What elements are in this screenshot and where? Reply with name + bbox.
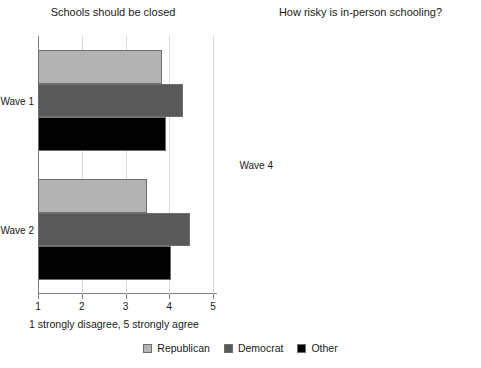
panel-title-left: Schools should be closed <box>8 6 218 18</box>
group-label-wave-4: Wave 4 <box>231 160 273 171</box>
x-axis-tick-label: 5 <box>210 301 216 312</box>
figure: Schools should be closed 12345 1 strongl… <box>0 0 481 368</box>
legend-swatch-other <box>297 344 306 353</box>
panel-how-risky-is-in-person-schooling: How risky is in-person schooling? 123456… <box>240 0 481 340</box>
legend: RepublicanDemocratOther <box>0 342 481 354</box>
x-axis-tick <box>82 294 83 299</box>
bar-other-wave-2 <box>38 246 171 280</box>
bar-other-wave-1 <box>38 117 166 151</box>
x-axis-line-left <box>38 293 217 294</box>
panel-schools-should-be-closed: Schools should be closed 12345 1 strongl… <box>0 0 240 340</box>
legend-label: Democrat <box>238 342 284 354</box>
bar-republican-wave-2 <box>38 179 147 213</box>
plot-area-left: 12345 <box>38 36 213 294</box>
x-axis-tick-label: 4 <box>166 301 172 312</box>
legend-label: Other <box>311 342 337 354</box>
group-label-wave-1: Wave 1 <box>0 95 34 106</box>
legend-item-democrat: Democrat <box>224 342 284 354</box>
x-axis-tick <box>169 294 170 299</box>
x-axis-tick-label: 2 <box>79 301 85 312</box>
x-axis-tick <box>38 294 39 299</box>
x-axis-tick <box>126 294 127 299</box>
legend-item-other: Other <box>297 342 337 354</box>
legend-label: Republican <box>157 342 210 354</box>
panel-title-right: How risky is in-person schooling? <box>240 6 481 18</box>
x-axis-caption-left: 1 strongly disagree, 5 strongly agree <box>8 318 220 330</box>
group-label-wave-2: Wave 2 <box>0 224 34 235</box>
x-axis-tick <box>213 294 214 299</box>
bar-republican-wave-1 <box>38 50 162 84</box>
legend-swatch-democrat <box>224 344 233 353</box>
gridline <box>213 36 214 294</box>
legend-swatch-republican <box>143 344 152 353</box>
bar-democrat-wave-1 <box>38 84 183 118</box>
bar-democrat-wave-2 <box>38 213 190 247</box>
x-axis-tick-label: 1 <box>35 301 41 312</box>
x-axis-tick-label: 3 <box>123 301 129 312</box>
legend-item-republican: Republican <box>143 342 210 354</box>
